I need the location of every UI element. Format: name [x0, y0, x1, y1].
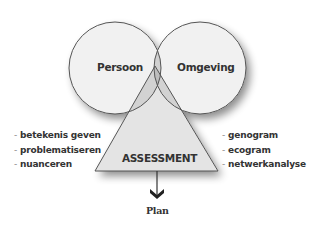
left-list: -betekenis geven -problematiseren -nuanc…: [14, 128, 101, 172]
list-item: -ecogram: [222, 143, 306, 158]
omgeving-label: Omgeving: [177, 61, 235, 73]
list-item: -betekenis geven: [14, 128, 101, 143]
list-item: -problematiseren: [14, 143, 101, 158]
list-item: -nuanceren: [14, 157, 101, 172]
persoon-label: Persoon: [97, 61, 143, 73]
plan-label: Plan: [146, 205, 169, 216]
venn-assessment-diagram: [0, 0, 315, 231]
list-item: -netwerkanalyse: [222, 157, 306, 172]
assessment-label: ASSESSMENT: [122, 152, 197, 164]
list-item: -genogram: [222, 128, 306, 143]
right-list: -genogram -ecogram -netwerkanalyse: [222, 128, 306, 172]
